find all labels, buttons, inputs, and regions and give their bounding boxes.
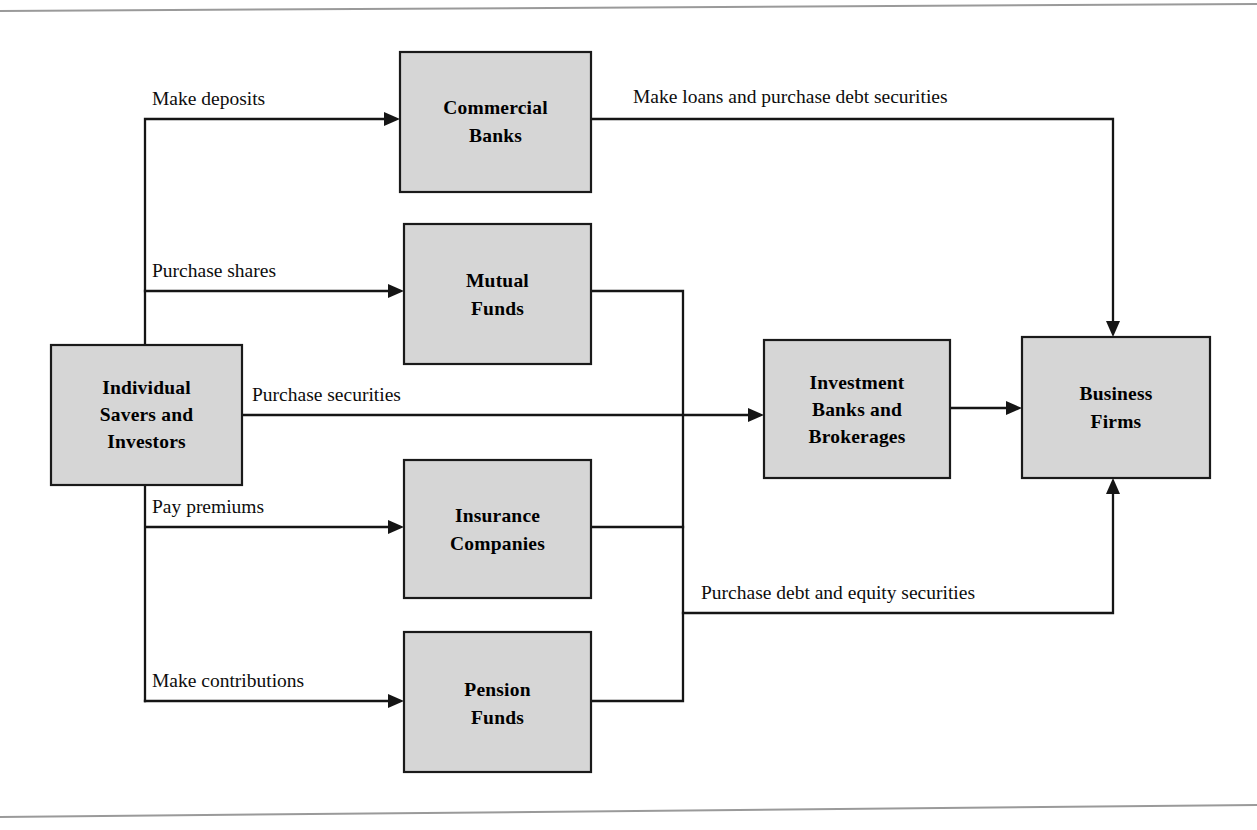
edge-make-loans-path xyxy=(591,119,1113,323)
flow-diagram-canvas: Make deposits Purchase shares Purchase s… xyxy=(0,0,1257,830)
edge-investment-banks-to-firms xyxy=(950,401,1022,415)
edge-label-make-deposits: Make deposits xyxy=(152,88,265,109)
edge-investment-banks-to-firms-arrowhead xyxy=(1006,401,1022,415)
edge-label-make-contributions: Make contributions xyxy=(152,670,304,691)
page-rule-bottom xyxy=(0,805,1257,817)
node-insurance-companies-label-line-2: Companies xyxy=(450,533,545,554)
flow-diagram-svg: Make deposits Purchase shares Purchase s… xyxy=(0,0,1257,830)
node-savers-label-line-1: Individual xyxy=(102,377,191,398)
node-mutual-funds-rect[interactable] xyxy=(404,224,591,364)
node-individual-savers-and-investors[interactable]: Individual Savers and Investors xyxy=(51,345,242,485)
node-savers-label-line-2: Savers and xyxy=(100,404,194,425)
node-mutual-funds-label-line-2: Funds xyxy=(471,298,524,319)
node-commercial-banks-label-line-2: Banks xyxy=(469,125,522,146)
node-pension-funds[interactable]: Pension Funds xyxy=(404,632,591,772)
edge-purchase-shares xyxy=(145,284,404,298)
edge-pay-premiums-path xyxy=(145,485,390,701)
node-pension-funds-label-line-1: Pension xyxy=(464,679,530,700)
node-investment-banks-label-line-2: Banks and xyxy=(812,399,902,420)
node-mutual-funds[interactable]: Mutual Funds xyxy=(404,224,591,364)
node-pension-funds-rect[interactable] xyxy=(404,632,591,772)
edge-make-contributions xyxy=(145,694,404,708)
node-insurance-companies-rect[interactable] xyxy=(404,460,591,598)
edge-make-loans xyxy=(591,119,1120,337)
edge-purchase-securities xyxy=(242,408,764,422)
node-insurance-companies[interactable]: Insurance Companies xyxy=(404,460,591,598)
edge-label-pay-premiums: Pay premiums xyxy=(152,496,264,517)
node-insurance-companies-label-line-1: Insurance xyxy=(455,505,540,526)
node-pension-funds-label-line-2: Funds xyxy=(471,707,524,728)
node-savers-label-line-3: Investors xyxy=(107,431,186,452)
node-investment-banks-label-line-3: Brokerages xyxy=(809,426,906,447)
edge-label-make-loans: Make loans and purchase debt securities xyxy=(633,86,948,107)
node-commercial-banks-rect[interactable] xyxy=(400,52,591,192)
node-business-firms[interactable]: Business Firms xyxy=(1022,337,1210,478)
page-rule-top xyxy=(0,4,1257,11)
node-business-firms-label-line-1: Business xyxy=(1079,383,1152,404)
edge-make-loans-arrowhead xyxy=(1106,321,1120,337)
edge-intermediary-bus-path xyxy=(591,291,683,701)
edge-label-purchase-shares: Purchase shares xyxy=(152,260,276,281)
edge-make-deposits-arrowhead xyxy=(384,112,400,126)
edge-make-deposits xyxy=(145,112,400,345)
edge-label-purchase-securities: Purchase securities xyxy=(252,384,401,405)
node-mutual-funds-label-line-1: Mutual xyxy=(466,270,529,291)
node-business-firms-rect[interactable] xyxy=(1022,337,1210,478)
edge-purchase-shares-arrowhead xyxy=(388,284,404,298)
edge-purchase-debt-equity-arrowhead xyxy=(1106,478,1120,494)
edge-label-purchase-debt-equity: Purchase debt and equity securities xyxy=(701,582,975,603)
node-commercial-banks-label-line-1: Commercial xyxy=(443,97,548,118)
edge-make-contributions-arrowhead xyxy=(388,694,404,708)
edge-pay-premiums-arrowhead xyxy=(388,520,404,534)
node-commercial-banks[interactable]: Commercial Banks xyxy=(400,52,591,192)
edge-pay-premiums xyxy=(145,485,404,701)
edge-purchase-securities-arrowhead xyxy=(748,408,764,422)
node-investment-banks-and-brokerages[interactable]: Investment Banks and Brokerages xyxy=(764,340,950,478)
node-business-firms-label-line-2: Firms xyxy=(1091,411,1142,432)
node-investment-banks-label-line-1: Investment xyxy=(809,372,904,393)
edge-make-deposits-path xyxy=(145,119,386,345)
